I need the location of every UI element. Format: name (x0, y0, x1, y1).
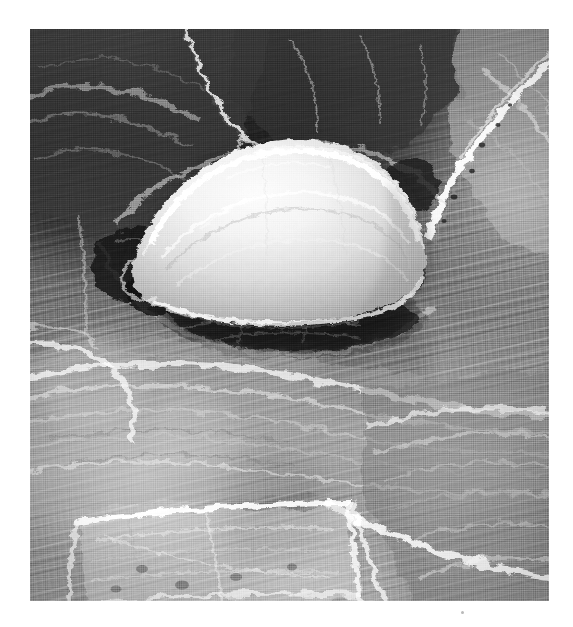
scan-grain (30, 29, 549, 601)
scan-speck (461, 611, 464, 614)
page-root (0, 0, 573, 627)
sem-micrograph (30, 29, 549, 601)
